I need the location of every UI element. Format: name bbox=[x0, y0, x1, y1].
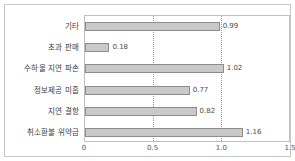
chart-outer-frame: 기타 초과 판매 수하물 지연 파손 정보제공 미흡 지연 결항 취소환불 위약… bbox=[4, 4, 291, 157]
category-label: 기타 bbox=[65, 15, 79, 36]
bar[interactable] bbox=[85, 86, 190, 95]
bar-value-label: 0.18 bbox=[112, 44, 128, 51]
bar-row: 0.77 bbox=[85, 80, 289, 101]
x-tick-label: 1.0 bbox=[216, 144, 227, 152]
x-tick-label: 0 bbox=[82, 144, 86, 152]
bar[interactable] bbox=[85, 64, 224, 73]
bar-series: 0.99 0.18 1.02 0.77 0.82 bbox=[85, 16, 289, 141]
bar-value-label: 1.16 bbox=[246, 129, 262, 136]
bar-value-label: 0.99 bbox=[223, 23, 239, 30]
category-label: 수하물 지연 파손 bbox=[24, 57, 79, 78]
bar-row: 0.18 bbox=[85, 37, 289, 58]
bar-row: 0.82 bbox=[85, 101, 289, 122]
bar-row: 0.99 bbox=[85, 16, 289, 37]
x-tick-label: 0.5 bbox=[147, 144, 158, 152]
chart-screenshot: 기타 초과 판매 수하물 지연 파손 정보제공 미흡 지연 결항 취소환불 위약… bbox=[0, 0, 295, 161]
bar[interactable] bbox=[85, 43, 109, 52]
bar[interactable] bbox=[85, 22, 220, 31]
bar-value-label: 0.82 bbox=[200, 108, 216, 115]
category-label: 취소환불 위약금 bbox=[27, 121, 79, 142]
bar[interactable] bbox=[85, 128, 243, 137]
category-label: 정보제공 미흡 bbox=[34, 79, 79, 100]
value-axis-labels: 0 0.5 1.0 1.5 bbox=[84, 144, 290, 156]
plot-area: 0.99 0.18 1.02 0.77 0.82 bbox=[84, 15, 290, 142]
bar[interactable] bbox=[85, 107, 197, 116]
bar-row: 1.02 bbox=[85, 58, 289, 79]
bar-value-label: 0.77 bbox=[193, 87, 209, 94]
x-tick-label: 1.5 bbox=[284, 144, 295, 152]
bar-row: 1.16 bbox=[85, 122, 289, 143]
category-label: 지연 결항 bbox=[48, 100, 79, 121]
bar-value-label: 1.02 bbox=[227, 65, 243, 72]
category-label: 초과 판매 bbox=[48, 36, 79, 57]
category-axis-labels: 기타 초과 판매 수하물 지연 파손 정보제공 미흡 지연 결항 취소환불 위약… bbox=[5, 15, 82, 142]
